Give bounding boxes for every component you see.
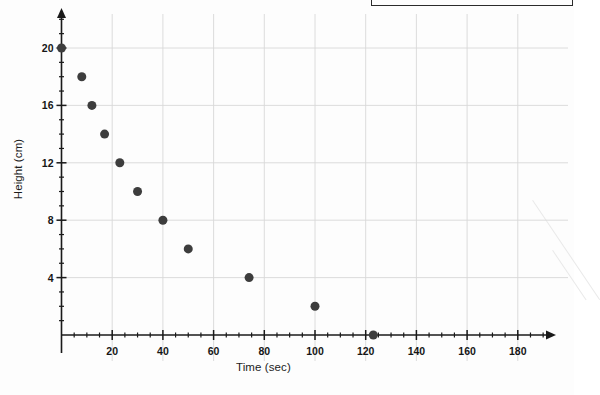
data-point <box>311 302 320 311</box>
data-point <box>87 101 96 110</box>
x-tick-label: 100 <box>306 345 324 357</box>
x-tick-label: 20 <box>106 345 118 357</box>
minor-tick-marks <box>57 19 544 340</box>
data-point <box>77 72 86 81</box>
data-point <box>369 331 378 340</box>
x-tick-label: 180 <box>509 345 527 357</box>
x-tick-label: 120 <box>357 345 375 357</box>
x-tick-label: 60 <box>208 345 220 357</box>
data-point <box>158 216 167 225</box>
x-tick-label: 80 <box>258 345 270 357</box>
x-tick-label: 160 <box>458 345 476 357</box>
axis-lines <box>57 8 556 353</box>
data-point <box>184 244 193 253</box>
x-tick-label: 140 <box>408 345 426 357</box>
y-axis-title: Height (cm) <box>12 129 24 209</box>
y-tick-label: 4 <box>34 272 54 284</box>
y-tick-label: 20 <box>34 42 54 54</box>
data-point <box>57 44 66 53</box>
data-point <box>245 273 254 282</box>
y-tick-label: 8 <box>34 214 54 226</box>
x-tick-label: 40 <box>157 345 169 357</box>
y-tick-label: 12 <box>34 157 54 169</box>
data-point <box>133 187 142 196</box>
data-points <box>57 44 378 340</box>
data-point <box>115 158 124 167</box>
x-axis-title: Time (sec) <box>236 361 291 373</box>
data-point <box>100 130 109 139</box>
y-tick-label: 16 <box>34 99 54 111</box>
